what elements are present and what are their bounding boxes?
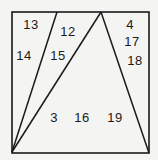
region-label: 17 (124, 35, 139, 48)
region-label: 15 (50, 49, 65, 62)
region-label: 16 (74, 111, 89, 124)
region-label: 19 (107, 111, 122, 124)
region-label: 12 (60, 25, 75, 38)
region-label: 18 (127, 54, 142, 67)
left-diagonal-line (12, 12, 57, 152)
region-label: 13 (23, 18, 38, 31)
region-label: 14 (16, 49, 31, 62)
region-label: 3 (50, 111, 58, 124)
middle-diagonal-line (12, 12, 101, 152)
region-label: 4 (126, 18, 134, 31)
